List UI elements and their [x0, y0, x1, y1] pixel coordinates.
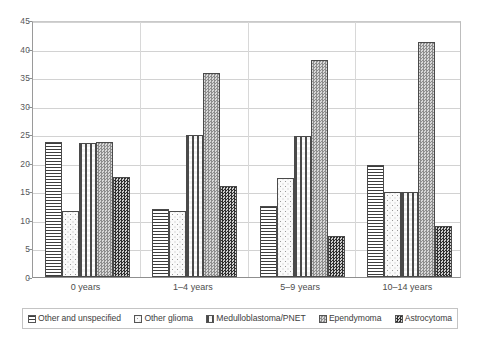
legend-swatch-icon: [28, 315, 36, 323]
x-axis-tick-label: 0 years: [32, 282, 139, 293]
x-axis-tick-label: 1–4 years: [139, 282, 246, 293]
bar: [435, 226, 452, 277]
group-separator: [248, 22, 249, 277]
x-axis-tick-label: 5–9 years: [247, 282, 354, 293]
bar: [294, 136, 311, 277]
gridline: [33, 108, 460, 109]
bar: [328, 236, 345, 277]
x-axis-tick-label: 10–14 years: [354, 282, 461, 293]
bar: [79, 143, 96, 277]
legend-swatch-icon: [319, 315, 327, 323]
legend-item[interactable]: Astrocytoma: [395, 314, 452, 323]
y-axis-tick-label: 45: [4, 17, 30, 26]
bar: [277, 178, 294, 277]
legend-label: Other glioma: [144, 314, 193, 323]
x-axis-labels: 0 years1–4 years5–9 years10–14 years: [32, 282, 461, 298]
bar: [96, 142, 113, 277]
gridline: [33, 79, 460, 80]
legend-item[interactable]: Other glioma: [134, 314, 193, 323]
y-axis-tick-label: 40: [4, 46, 30, 55]
bar: [384, 192, 401, 277]
legend-item[interactable]: Other and unspecified: [28, 314, 121, 323]
plot-area: [32, 21, 461, 278]
legend-label: Other and unspecified: [38, 314, 121, 323]
gridline: [33, 22, 460, 23]
group-separator: [355, 22, 356, 277]
legend-swatch-icon: [395, 315, 403, 323]
bar: [367, 165, 384, 278]
y-axis-tick-label: 5: [4, 245, 30, 254]
y-axis-tick-label: 10: [4, 217, 30, 226]
y-axis-tick-label: 15: [4, 188, 30, 197]
legend-item[interactable]: Medulloblastoma/PNET: [206, 314, 305, 323]
legend-swatch-icon: [134, 315, 142, 323]
bar: [62, 211, 79, 277]
y-axis-tick-label: 20: [4, 160, 30, 169]
chart-legend: Other and unspecifiedOther gliomaMedullo…: [22, 308, 458, 329]
group-separator: [140, 22, 141, 277]
y-axis-tick-label: 30: [4, 103, 30, 112]
legend-item[interactable]: Ependymoma: [319, 314, 382, 323]
legend-label: Astrocytoma: [405, 314, 452, 323]
bar: [203, 73, 220, 277]
bar: [186, 135, 203, 277]
bar: [45, 142, 62, 277]
y-axis: 051015202530354045: [0, 21, 30, 278]
bar: [418, 42, 435, 277]
bar: [401, 192, 418, 277]
gridline: [33, 51, 460, 52]
legend-swatch-icon: [206, 315, 214, 323]
bar: [169, 211, 186, 277]
bar: [152, 209, 169, 277]
bar: [311, 60, 328, 277]
y-axis-tick-label: 35: [4, 74, 30, 83]
gridline: [33, 136, 460, 137]
bar-chart: 051015202530354045 0 years1–4 years5–9 y…: [0, 0, 479, 345]
bar: [260, 206, 277, 277]
bar: [113, 177, 130, 278]
y-axis-tick-label: 0: [4, 274, 30, 283]
y-axis-tick-mark: [28, 278, 32, 279]
legend-label: Medulloblastoma/PNET: [216, 314, 305, 323]
y-axis-tick-label: 25: [4, 131, 30, 140]
bar: [220, 186, 237, 277]
legend-label: Ependymoma: [329, 314, 382, 323]
